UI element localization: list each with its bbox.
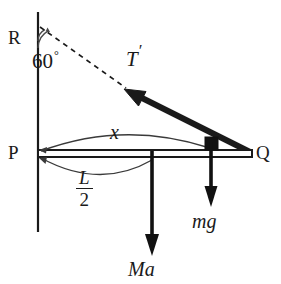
tension-symbol: T (126, 47, 138, 71)
rod-PQ (38, 150, 252, 157)
weight-arrow-head (205, 186, 218, 207)
prime-symbol: ′ (138, 41, 142, 60)
label-tension-T-prime: T′ (126, 44, 141, 70)
fraction-denominator-2: 2 (76, 189, 93, 209)
distance-half-L-arrowhead (39, 157, 47, 164)
label-point-Q: Q (256, 143, 270, 162)
label-inertial-force-Ma: Ma (128, 259, 155, 279)
distance-half-L-arc (41, 158, 152, 175)
label-weight-mg: mg (192, 211, 216, 231)
angle-value: 60 (32, 49, 53, 73)
inertial-force-arrow-head (145, 234, 159, 256)
label-half-length-fraction: L 2 (76, 168, 93, 209)
label-angle-60-degrees: 60° (32, 50, 58, 72)
distance-x-arc (41, 135, 210, 151)
fraction-numerator-L: L (76, 168, 93, 189)
tension-arrow-head (124, 89, 146, 106)
physics-diagram-figure: R P Q 60° T′ x mg Ma L 2 (0, 0, 281, 284)
angle-arc-arrowhead (46, 28, 51, 33)
label-point-P: P (8, 143, 19, 162)
label-point-R: R (8, 28, 21, 47)
degree-symbol: ° (54, 48, 59, 62)
label-distance-x: x (110, 122, 119, 142)
